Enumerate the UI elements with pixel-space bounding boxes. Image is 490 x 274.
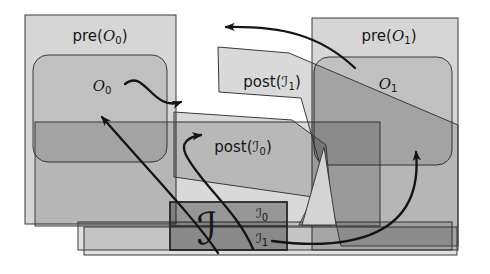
invariant-diagram: pre(O0) pre(O1) O0 O1 post(ℐ1) post(ℐ0) …	[0, 0, 490, 274]
label-i-big: ℐ	[197, 203, 218, 254]
diagram-canvas: pre(O0) pre(O1) O0 O1 post(ℐ1) post(ℐ0) …	[0, 0, 490, 274]
